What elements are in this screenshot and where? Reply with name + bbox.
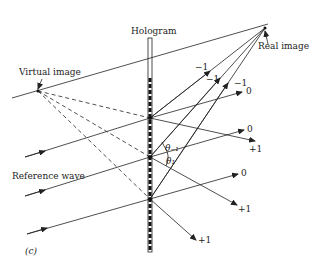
order-minus1-b: −1 xyxy=(206,75,219,84)
reference-wave-label: Reference wave xyxy=(12,172,85,181)
hologram-label: Hologram xyxy=(131,27,177,36)
order-plus1-b: +1 xyxy=(238,205,251,214)
order-zero-c: 0 xyxy=(241,169,247,178)
order-zero-b: 0 xyxy=(247,125,253,134)
virtual-image-label: Virtual image xyxy=(19,68,81,77)
theta-minus1-label: θ₋₁ xyxy=(165,144,179,153)
order-plus1-c: +1 xyxy=(198,236,211,245)
order-zero-a: 0 xyxy=(246,87,252,96)
panel-label: (c) xyxy=(25,247,37,256)
order-plus1-a: +1 xyxy=(249,145,262,154)
order-minus1-a: −1 xyxy=(195,63,208,72)
real-image-label: Real image xyxy=(258,42,309,51)
theta-1-label: θ₁ xyxy=(166,157,175,166)
